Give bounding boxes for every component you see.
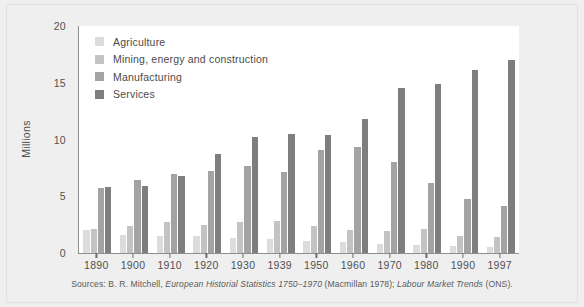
x-tick-label: 1900 — [121, 259, 146, 271]
y-tick-label: 5 — [60, 190, 66, 202]
x-tick-mark — [499, 253, 500, 258]
bar — [230, 238, 236, 253]
x-tick-mark — [242, 253, 243, 258]
legend-swatch — [95, 90, 104, 99]
x-tick-label: 1960 — [341, 259, 366, 271]
bar — [421, 229, 427, 253]
bar — [508, 60, 514, 253]
legend-swatch — [95, 37, 104, 46]
bar — [201, 225, 207, 253]
chart-legend: AgricultureMining, energy and constructi… — [95, 33, 365, 103]
bar — [127, 226, 133, 253]
x-tick-label: 1970 — [377, 259, 402, 271]
bar — [362, 119, 368, 253]
x-tick-label: 1930 — [231, 259, 256, 271]
legend-label: Mining, energy and construction — [113, 53, 268, 65]
bar — [281, 172, 287, 253]
bar — [105, 187, 111, 253]
x-tick-label: 1997 — [487, 259, 512, 271]
bar-group — [372, 26, 409, 253]
bar — [83, 230, 89, 253]
bar — [178, 176, 184, 253]
bar-group — [482, 26, 519, 253]
bar — [340, 242, 346, 253]
x-tick-mark — [96, 253, 97, 258]
bar — [91, 229, 97, 253]
legend-label: Manufacturing — [113, 71, 182, 83]
bar — [303, 241, 309, 253]
bar — [428, 183, 434, 253]
bar — [142, 186, 148, 253]
bar — [193, 236, 199, 253]
bar — [435, 84, 441, 253]
x-tick-label: 1920 — [194, 259, 219, 271]
bar — [244, 166, 250, 253]
bar — [384, 231, 390, 253]
bar — [494, 237, 500, 253]
y-tick-label: 0 — [60, 247, 66, 259]
x-tick-label: 1910 — [157, 259, 182, 271]
bar — [252, 137, 258, 253]
bar — [472, 70, 478, 253]
x-tick-mark — [206, 253, 207, 258]
legend-swatch — [95, 55, 104, 64]
x-tick-mark — [279, 253, 280, 258]
source-title-2: Labour Market Trends — [397, 279, 483, 289]
legend-item: Mining, energy and construction — [95, 51, 365, 69]
x-tick-mark — [132, 253, 133, 258]
bar — [157, 236, 163, 253]
bar — [208, 171, 214, 253]
y-tick-label: 10 — [54, 134, 66, 146]
bar — [398, 88, 404, 253]
bar — [120, 235, 126, 253]
legend-swatch — [95, 72, 104, 81]
bar — [267, 239, 273, 253]
bar — [413, 245, 419, 253]
bar — [347, 230, 353, 253]
bar — [318, 150, 324, 253]
bar — [164, 222, 170, 253]
legend-item: Services — [95, 86, 365, 104]
bar-group — [409, 26, 446, 253]
x-tick-label: 1980 — [414, 259, 439, 271]
x-tick-label: 1990 — [451, 259, 476, 271]
bar — [288, 134, 294, 253]
x-tick-mark — [426, 253, 427, 258]
y-tick-label: 20 — [54, 20, 66, 32]
chart-figure: Millions 05101520 1890190019101920193019… — [0, 0, 584, 307]
bar — [391, 162, 397, 253]
legend-item: Agriculture — [95, 33, 365, 51]
bar — [311, 226, 317, 253]
bar — [325, 135, 331, 253]
x-tick-mark — [389, 253, 390, 258]
x-tick-label: 1939 — [267, 259, 292, 271]
legend-label: Agriculture — [113, 36, 165, 48]
x-tick-mark — [169, 253, 170, 258]
bar-group — [446, 26, 483, 253]
x-tick-label: 1950 — [304, 259, 329, 271]
bar — [457, 236, 463, 253]
x-axis-tick-labels: 1890190019101920193019391950196019701980… — [78, 259, 518, 275]
bar — [354, 147, 360, 253]
legend-item: Manufacturing — [95, 68, 365, 86]
bar — [501, 206, 507, 253]
bar — [450, 246, 456, 253]
bar — [237, 222, 243, 253]
y-axis-tick-labels: 05101520 — [0, 26, 74, 253]
x-tick-mark — [316, 253, 317, 258]
x-tick-label: 1890 — [84, 259, 109, 271]
x-tick-mark — [352, 253, 353, 258]
legend-label: Services — [113, 88, 155, 100]
bar — [464, 199, 470, 253]
source-note: Sources: B. R. Mitchell, European Histor… — [0, 279, 584, 289]
bar — [274, 221, 280, 253]
source-title-1: European Historial Statistics 1750–1970 — [165, 279, 322, 289]
x-tick-mark — [462, 253, 463, 258]
bar — [134, 180, 140, 253]
bar — [171, 174, 177, 253]
bar — [98, 188, 104, 253]
bar — [377, 244, 383, 253]
bar — [215, 154, 221, 253]
y-tick-label: 15 — [54, 77, 66, 89]
